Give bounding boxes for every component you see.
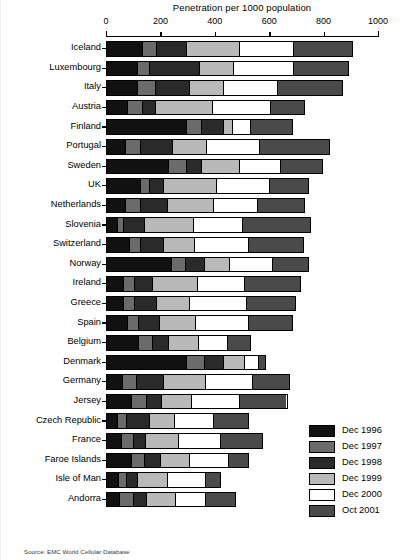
stacked-bar bbox=[106, 41, 353, 57]
bar-segment bbox=[228, 454, 248, 468]
bar-segment bbox=[155, 101, 212, 115]
bar-segment bbox=[258, 356, 265, 370]
chart-row: Greece bbox=[0, 295, 413, 315]
bar-segment bbox=[107, 297, 123, 311]
bar-segment bbox=[189, 297, 246, 311]
bar-segment bbox=[270, 101, 304, 115]
category-label-sweden: Sweden bbox=[0, 160, 101, 170]
bar-segment bbox=[257, 199, 305, 213]
bar-segment bbox=[134, 297, 156, 311]
chart-row: Norway bbox=[0, 256, 413, 276]
bar-segment bbox=[186, 160, 201, 174]
bar-segment bbox=[152, 277, 197, 291]
bar-segment bbox=[131, 395, 146, 409]
bar-segment bbox=[155, 81, 189, 95]
bar-segment bbox=[107, 395, 131, 409]
chart-row: Germany bbox=[0, 373, 413, 393]
bar-segment bbox=[140, 140, 173, 154]
bar-segment bbox=[199, 62, 233, 76]
bar-segment bbox=[205, 375, 253, 389]
stacked-bar bbox=[106, 61, 349, 77]
legend-label: Dec 1998 bbox=[342, 457, 382, 467]
bar-segment bbox=[175, 493, 205, 507]
bar-segment bbox=[201, 120, 223, 134]
bar-segment bbox=[189, 454, 228, 468]
bar-segment bbox=[107, 199, 125, 213]
stacked-bar bbox=[106, 119, 293, 135]
chart-row: Spain bbox=[0, 314, 413, 334]
stacked-bar bbox=[106, 355, 266, 371]
stacked-bar bbox=[106, 453, 249, 469]
bar-segment bbox=[107, 375, 122, 389]
category-label-luxembourg: Luxembourg bbox=[0, 62, 101, 72]
chart-row: Austria bbox=[0, 99, 413, 119]
bar-segment bbox=[107, 493, 119, 507]
bar-segment bbox=[204, 356, 223, 370]
bar-segment bbox=[156, 297, 189, 311]
bar-segment bbox=[117, 414, 127, 428]
bar-segment bbox=[161, 395, 191, 409]
bar-segment bbox=[244, 277, 300, 291]
bar-segment bbox=[160, 454, 189, 468]
bar-segment bbox=[152, 336, 168, 350]
bar-segment bbox=[122, 375, 136, 389]
bar-segment bbox=[149, 62, 199, 76]
bar-segment bbox=[277, 81, 342, 95]
bar-segment bbox=[137, 81, 155, 95]
bar-segment bbox=[185, 258, 204, 272]
bar-segment bbox=[186, 120, 201, 134]
stacked-bar bbox=[106, 276, 301, 292]
bar-segment bbox=[140, 179, 150, 193]
category-label-spain: Spain bbox=[0, 317, 101, 327]
category-label-norway: Norway bbox=[0, 258, 101, 268]
bar-segment bbox=[186, 356, 204, 370]
bar-segment bbox=[178, 434, 220, 448]
x-axis-tick bbox=[324, 32, 325, 37]
legend-label: Oct 2001 bbox=[342, 505, 380, 515]
category-label-faroe-islands: Faroe Islands bbox=[0, 454, 101, 464]
bar-segment bbox=[123, 297, 134, 311]
bar-segment bbox=[191, 395, 239, 409]
bar-segment bbox=[107, 316, 127, 330]
legend-item: Dec 1998 bbox=[309, 455, 409, 471]
stacked-bar bbox=[106, 413, 249, 429]
category-label-portugal: Portugal bbox=[0, 140, 101, 150]
bar-segment bbox=[140, 238, 163, 252]
bar-segment bbox=[239, 42, 293, 56]
stacked-bar bbox=[106, 159, 323, 175]
chart-row: Sweden bbox=[0, 158, 413, 178]
bar-segment bbox=[163, 238, 194, 252]
bar-segment bbox=[195, 316, 248, 330]
stacked-bar bbox=[106, 472, 221, 488]
bar-segment bbox=[156, 42, 186, 56]
bar-segment bbox=[136, 375, 163, 389]
bar-segment bbox=[118, 473, 126, 487]
category-label-france: France bbox=[0, 434, 101, 444]
x-axis-tick bbox=[215, 32, 216, 37]
category-label-italy: Italy bbox=[0, 81, 101, 91]
legend-label: Dec 1999 bbox=[342, 473, 382, 483]
bar-segment bbox=[197, 277, 245, 291]
category-label-slovenia: Slovenia bbox=[0, 219, 101, 229]
x-axis-tick-labels: 02004006008001000 bbox=[0, 16, 413, 28]
bar-segment bbox=[126, 473, 137, 487]
bar-segment bbox=[144, 218, 193, 232]
chart-row: Jersey bbox=[0, 393, 413, 413]
bar-segment bbox=[146, 395, 161, 409]
bar-segment bbox=[186, 42, 239, 56]
bar-segment bbox=[107, 140, 125, 154]
bar-segment bbox=[227, 336, 250, 350]
bar-segment bbox=[244, 356, 258, 370]
category-label-austria: Austria bbox=[0, 101, 101, 111]
bar-segment bbox=[223, 81, 277, 95]
category-label-ireland: Ireland bbox=[0, 277, 101, 287]
legend-swatch bbox=[309, 473, 335, 485]
chart-row: Luxembourg bbox=[0, 60, 413, 80]
bar-segment bbox=[107, 336, 138, 350]
bar-segment bbox=[293, 42, 351, 56]
bar-segment bbox=[259, 140, 328, 154]
category-label-jersey: Jersey bbox=[0, 395, 101, 405]
bar-segment bbox=[137, 62, 149, 76]
bar-segment bbox=[212, 101, 270, 115]
bar-segment bbox=[137, 473, 167, 487]
